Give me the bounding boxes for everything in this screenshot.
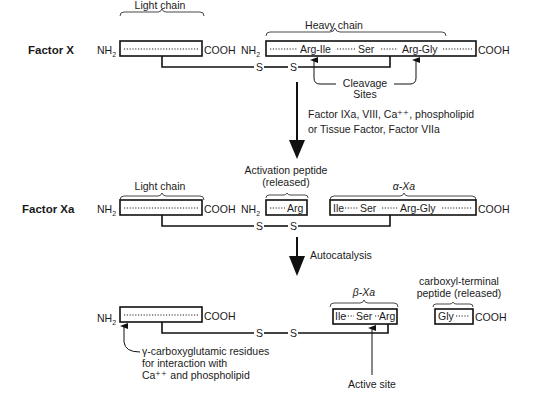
cooh-terminus: COOH: [478, 44, 510, 56]
residue-ser: Ser: [356, 310, 373, 322]
factor-xa-label: Factor Xa: [22, 203, 75, 215]
light-chain-brace: [120, 193, 204, 200]
disulfide-line: [162, 322, 254, 333]
gla-note-line-2: for interaction with: [142, 357, 227, 369]
cooh-terminus: COOH: [475, 311, 507, 323]
residue-gly: Gly: [438, 310, 455, 322]
residue-arg-gly: Arg-Gly: [400, 202, 436, 214]
disulfide-line: [298, 215, 390, 226]
sulfur-1: S: [256, 61, 263, 73]
sulfur-1: S: [256, 220, 263, 232]
nh2-terminus: NH2: [97, 203, 116, 217]
autocatalysis-label: Autocatalysis: [310, 249, 372, 261]
factor-x-label: Factor X: [28, 44, 74, 56]
nh2-terminus: NH2: [97, 312, 116, 326]
residue-arg: Arg: [379, 310, 396, 322]
activators-line-1: Factor IXa, VIII, Ca⁺⁺, phospholipid: [308, 108, 474, 120]
residue-ile: Ile: [333, 202, 344, 214]
released-label: (released): [262, 176, 309, 188]
light-chain-label: Light chain: [135, 180, 186, 192]
cleavage-arrow-2: [410, 60, 416, 84]
sites-label: Sites: [353, 88, 376, 100]
autocatalysis-arrow-head: [289, 256, 305, 276]
peptide-released-label: peptide (released): [417, 287, 502, 299]
activation-peptide-brace: [266, 193, 308, 198]
gla-note-line-3: Ca⁺⁺ and phospholipid: [142, 369, 250, 381]
beta-xa-brace: [330, 300, 398, 307]
reaction-arrow-head: [289, 140, 305, 159]
activation-peptide-label: Activation peptide: [245, 164, 328, 176]
cleavage-arrow-1: [314, 60, 320, 84]
sulfur-2: S: [290, 61, 297, 73]
cooh-terminus: COOH: [204, 310, 236, 322]
residue-ile: Ile: [335, 310, 346, 322]
nh2-terminus: NH2: [97, 44, 116, 58]
cooh-terminus: COOH: [478, 203, 510, 215]
sulfur-2: S: [290, 220, 297, 232]
activators-line-2: or Tissue Factor, Factor VIIa: [308, 123, 440, 135]
disulfide-line: [162, 215, 254, 226]
alpha-xa-brace: [330, 193, 476, 200]
beta-xa-label: β-Xa: [352, 286, 375, 298]
active-site-label: Active site: [348, 378, 396, 390]
heavy-chain-label: Heavy chain: [305, 19, 363, 31]
nh2-terminus: NH2: [241, 203, 260, 217]
light-chain-label: Light chain: [135, 0, 186, 11]
nh2-terminus: NH2: [241, 44, 260, 58]
carboxyl-peptide-brace: [433, 302, 473, 307]
residue-ser: Ser: [358, 43, 375, 55]
disulfide-line: [298, 56, 390, 67]
sulfur-2: S: [290, 327, 297, 339]
sulfur-1: S: [256, 327, 263, 339]
residue-arg: Arg: [287, 202, 304, 214]
disulfide-line: [162, 56, 254, 67]
cooh-terminus: COOH: [204, 44, 236, 56]
carboxyl-terminal-label: carboxyl-terminal: [419, 275, 499, 287]
cooh-terminus: COOH: [204, 203, 236, 215]
factor-x-activation-diagram: Factor X Light chain NH2 COOH NH2 Heavy …: [0, 0, 533, 397]
gla-pointer-arrow: [124, 326, 140, 352]
residue-ser: Ser: [360, 202, 377, 214]
residue-arg-ile: Arg-Ile: [300, 43, 331, 55]
gla-note-line-1: γ-carboxyglutamic residues: [142, 345, 269, 357]
residue-arg-gly: Arg-Gly: [402, 43, 438, 55]
alpha-xa-label: α-Xa: [393, 180, 415, 192]
